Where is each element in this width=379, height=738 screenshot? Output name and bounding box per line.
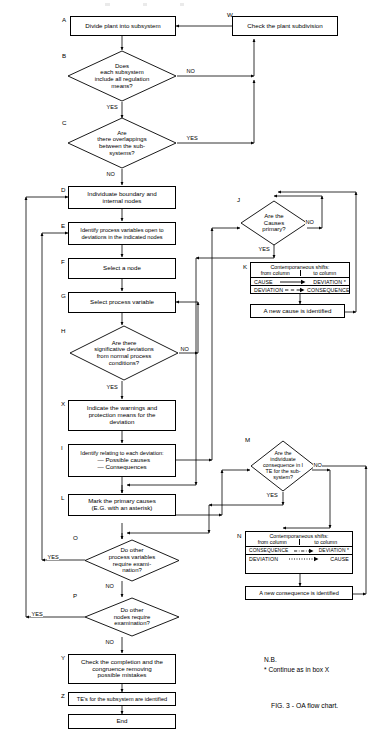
node-J-line-1: Causes bbox=[262, 220, 285, 227]
node-tag-N: N bbox=[237, 532, 241, 539]
node-Z-line-0: TE's for the subsystem are identified bbox=[71, 696, 173, 702]
node-tag-A: A bbox=[62, 16, 66, 23]
node-tag-P: P bbox=[73, 592, 77, 599]
node-Z-tes-identified[interactable]: TE's for the subsystem are identified bbox=[68, 692, 176, 706]
edge-label-c-yes: YES bbox=[186, 135, 198, 141]
edge-label-m-yes: YES bbox=[266, 492, 278, 498]
node-tag-X: X bbox=[61, 400, 65, 407]
node-C-line-1: there overlappings bbox=[97, 136, 146, 143]
node-L-line-1: (E.G. with an asterisk) bbox=[71, 505, 173, 512]
node-P-line-2: examination? bbox=[114, 620, 151, 627]
K-row-0-arrow-solid-icon bbox=[273, 279, 313, 285]
node-tag-E: E bbox=[61, 222, 65, 229]
node-O-line-3: nation? bbox=[109, 567, 156, 574]
node-F-select-node[interactable]: Select a node bbox=[68, 258, 176, 279]
edge-label-p-no: NO bbox=[105, 639, 114, 645]
node-H-line-3: conditions? bbox=[94, 360, 154, 367]
node-J-decision[interactable]: Are the Causes primary? bbox=[240, 200, 308, 246]
N-row-1-to: CAUSE bbox=[330, 556, 349, 562]
node-tag-Z: Z bbox=[61, 692, 65, 699]
node-O-decision[interactable]: Do other process variables require exami… bbox=[84, 539, 180, 582]
node-tag-Y: Y bbox=[61, 654, 65, 661]
node-E-identify-process-variables[interactable]: Identify process variables open to devia… bbox=[68, 222, 176, 245]
node-J-line-0: Are the bbox=[262, 213, 285, 220]
nb-note-title: N.B. bbox=[264, 655, 329, 665]
node-K-result-new-cause[interactable]: A new cause is identified bbox=[250, 304, 345, 318]
node-K-result-line-0: A new cause is identified bbox=[253, 308, 342, 315]
node-I-line-2: — Consequences bbox=[71, 464, 173, 471]
node-M-decision[interactable]: Are the individuate consequence in I TE … bbox=[250, 440, 316, 492]
node-tag-B: B bbox=[62, 52, 66, 59]
edge-label-j-no: NO bbox=[305, 219, 314, 225]
node-tag-L: L bbox=[61, 494, 64, 501]
K-row-1-to: CONSEQUENCE bbox=[307, 287, 350, 293]
node-X-indicate-warnings[interactable]: Indicate the warnings and protection mea… bbox=[68, 400, 176, 431]
K-col-right: to column bbox=[300, 270, 350, 276]
K-title: Contemporaneous shifts: bbox=[251, 263, 349, 270]
flowchart-page: A Divide plant into subsystem W Check th… bbox=[0, 0, 379, 738]
node-B-line-3: means? bbox=[95, 83, 150, 90]
node-C-decision[interactable]: Are there overlappings between the sub- … bbox=[67, 117, 177, 169]
K-row-0-from: CAUSE bbox=[254, 279, 273, 285]
node-H-decision[interactable]: Are there significative deviations from … bbox=[69, 325, 179, 381]
node-H-line-2: from normal process bbox=[94, 353, 154, 360]
node-N-contemporaneous-shifts[interactable]: Contemporaneous shifts: from column to c… bbox=[245, 531, 353, 574]
node-E-line-0: Identify process variables open to bbox=[71, 227, 173, 233]
K-row-1: DEVIATION CONSEQUENCE bbox=[251, 286, 349, 294]
node-H-line-1: significative deviations bbox=[94, 346, 154, 353]
N-row-0-from: CONSEQUENCE bbox=[249, 548, 288, 553]
nb-note-text: * Continue as in box X bbox=[264, 665, 329, 675]
node-C-line-2: between the sub- bbox=[97, 143, 146, 150]
node-end[interactable]: End bbox=[68, 714, 176, 729]
node-P-decision[interactable]: Do other nodes require examination? bbox=[84, 597, 180, 637]
node-Y-line-2: possible mistakes bbox=[71, 672, 173, 679]
node-M-line-4: system? bbox=[263, 475, 303, 481]
K-row-1-from: DEVIATION bbox=[254, 287, 283, 293]
node-H-line-0: Are there bbox=[94, 340, 154, 347]
node-W-check-subdivision[interactable]: Check the plant subdivision bbox=[232, 16, 338, 36]
node-P-line-0: Do other bbox=[114, 607, 151, 614]
N-col-right: to column bbox=[299, 539, 353, 545]
edge-label-b-yes: YES bbox=[106, 104, 118, 110]
node-L-mark-primary-causes[interactable]: Mark the primary causes (E.G. with an as… bbox=[68, 494, 176, 516]
node-G-select-process-variable[interactable]: Select process variable bbox=[68, 292, 176, 313]
edge-label-m-no: NO bbox=[313, 462, 322, 468]
node-F-line-0: Select a node bbox=[71, 265, 173, 272]
node-tag-K: K bbox=[243, 263, 247, 270]
node-J-line-2: primary? bbox=[262, 226, 285, 233]
node-A-line-0: Divide plant into subsystem bbox=[73, 23, 173, 30]
node-tag-I: I bbox=[61, 444, 63, 451]
edge-label-p-yes: YES bbox=[31, 611, 43, 617]
node-B-line-1: each subsystem bbox=[95, 69, 150, 76]
nb-note: N.B. * Continue as in box X bbox=[264, 655, 329, 675]
K-col-left: from column bbox=[251, 270, 300, 276]
node-Y-check-completion[interactable]: Check the completion and the congruence … bbox=[68, 654, 176, 684]
node-tag-H: H bbox=[61, 327, 65, 334]
node-N-result-new-consequence[interactable]: A new consequence is identified bbox=[245, 586, 353, 600]
edge-label-h-no: NO bbox=[180, 346, 189, 352]
node-W-line-0: Check the plant subdivision bbox=[235, 23, 335, 30]
node-A-divide-plant[interactable]: Divide plant into subsystem bbox=[70, 16, 176, 36]
node-B-line-0: Does bbox=[95, 63, 150, 70]
N-row-1-from: DEVIATION bbox=[249, 556, 278, 562]
node-I-identify-causes-consequences[interactable]: Identify relating to each deviation: — P… bbox=[68, 444, 176, 477]
node-tag-F: F bbox=[61, 258, 65, 265]
node-K-contemporaneous-shifts[interactable]: Contemporaneous shifts: from column to c… bbox=[250, 262, 350, 294]
node-O-line-0: Do other bbox=[109, 547, 156, 554]
node-C-line-0: Are bbox=[97, 130, 146, 137]
node-B-decision[interactable]: Does each subsystem include all regulati… bbox=[67, 50, 177, 102]
N-row-0-to: DEVIATION * bbox=[319, 548, 349, 553]
K-column-headers: from column to column bbox=[251, 270, 349, 278]
node-B-line-2: include all regulation bbox=[95, 76, 150, 83]
node-D-individuate-nodes[interactable]: Individuate boundary and internal nodes bbox=[68, 186, 176, 209]
edge-label-h-yes: YES bbox=[106, 384, 118, 390]
K-row-0-to: DEVIATION * bbox=[313, 279, 346, 285]
N-column-headers: from column to column bbox=[246, 539, 352, 547]
figure-caption: FIG. 3 - OA flow chart. bbox=[271, 702, 338, 709]
N-title: Contemporaneous shifts: bbox=[246, 532, 352, 539]
N-row-1: DEVIATION CAUSE bbox=[246, 555, 352, 563]
edge-label-o-yes: YES bbox=[47, 554, 59, 560]
node-tag-O: O bbox=[73, 534, 78, 541]
edge-label-o-no: NO bbox=[105, 583, 114, 589]
N-col-left: from column bbox=[246, 539, 299, 545]
